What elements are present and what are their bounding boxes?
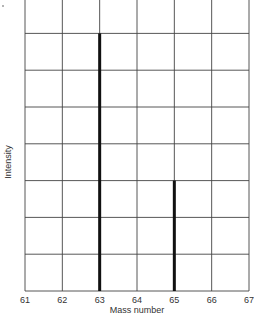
x-tick-label: 63 <box>95 295 105 305</box>
x-tick-labels: 61626364656667 <box>20 295 254 305</box>
peak-65 <box>173 181 176 291</box>
corner-mark <box>2 5 4 7</box>
x-tick-label: 66 <box>207 295 217 305</box>
mass-spectrum-chart: 61626364656667 Mass number Intensity <box>0 0 254 316</box>
x-tick-label: 62 <box>57 295 67 305</box>
x-axis-label: Mass number <box>110 305 165 315</box>
x-tick-label: 64 <box>132 295 142 305</box>
y-axis-label: Intensity <box>3 145 13 179</box>
peak-63 <box>98 33 101 291</box>
x-tick-label: 61 <box>20 295 30 305</box>
grid-lines <box>25 0 249 291</box>
x-tick-label: 67 <box>244 295 254 305</box>
x-tick-label: 65 <box>169 295 179 305</box>
